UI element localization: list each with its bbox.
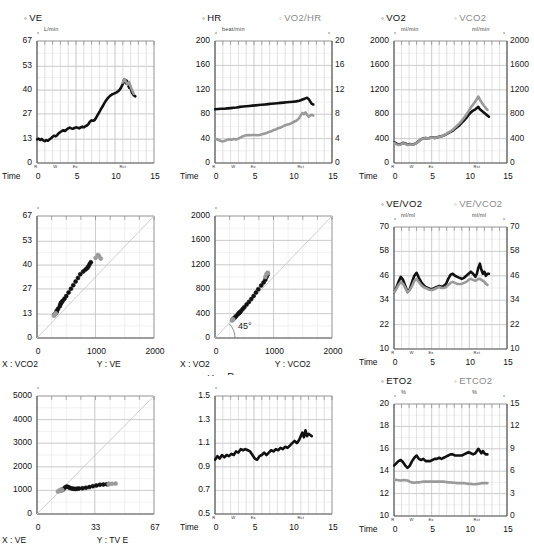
y-tick-label: 18 xyxy=(357,420,389,430)
event-marker-r: R xyxy=(212,515,215,520)
y-tick-label: 13 xyxy=(0,133,32,143)
chart-panel-panel9[interactable]: ◦ETO2◦ETCO2%%°°1012141618200369121505101… xyxy=(355,375,534,555)
x-axis-label: X : VCO2 xyxy=(2,359,38,369)
y-tick-label-right: 0 xyxy=(510,157,515,167)
plot-area-panel5 xyxy=(214,215,333,339)
y-tick-label: 1200 xyxy=(357,84,389,94)
y-tick-label: 1.1 xyxy=(178,437,210,447)
legend-label: HR xyxy=(207,12,221,23)
x-tick-label: 0 xyxy=(28,346,48,356)
x-tick-label: 0 xyxy=(385,524,405,534)
chart-panel-panel2[interactable]: ◦HR◦VO2/HRbeat/min°°04080120160200048121… xyxy=(178,0,355,190)
y-tick-label-right: 10 xyxy=(510,343,519,353)
legend-panel8-left: ◦R xyxy=(202,375,214,378)
event-marker-w: W xyxy=(410,350,414,355)
y-tick-label: 0.5 xyxy=(178,508,210,518)
x-tick-label: 0 xyxy=(206,346,226,356)
event-marker-w: W xyxy=(231,164,235,169)
x-axis-label-time: Time xyxy=(180,522,199,532)
y-tick-label: 40 xyxy=(178,133,210,143)
y-tick-label: 0.9 xyxy=(178,461,210,471)
legend-panel9-left: ◦ETO2 xyxy=(381,375,412,386)
x-axis-label-time: Time xyxy=(180,171,199,181)
y-tick-label: 4000 xyxy=(0,414,32,424)
y-tick-label-right: 800 xyxy=(510,108,524,118)
units-left-panel6: ml/ml xyxy=(401,212,415,218)
legend-marker-icon: ◦ xyxy=(381,14,384,23)
units-right-panel3: ml/min xyxy=(472,26,489,32)
legend-panel6-left: ◦VE/VO2 xyxy=(381,198,422,209)
degree-mark-left: ° xyxy=(394,31,396,37)
x-tick-label: 10 xyxy=(460,524,480,534)
x-tick-label: 5 xyxy=(423,524,443,534)
plot-area-panel2 xyxy=(214,40,333,164)
x-tick-label: 15 xyxy=(498,171,518,181)
event-marker-rct: Rct xyxy=(474,517,480,522)
plot-area-panel7 xyxy=(36,395,155,515)
y-tick-label-right: 9 xyxy=(510,443,515,453)
cpet-nine-panel-grid: ◦VEL/min°01327405367051015TimeRWExRct◦HR… xyxy=(0,0,534,555)
y-tick-label: 13 xyxy=(0,308,32,318)
chart-panel-panel3[interactable]: ◦VO2◦VCO2ml/minml/min°°04008001200160020… xyxy=(355,0,534,190)
y-tick-label-right: 1200 xyxy=(510,84,529,94)
legend-marker-icon: ◦ xyxy=(381,377,384,386)
event-marker-ex: Ex xyxy=(73,164,78,169)
x-tick-label: 15 xyxy=(498,357,518,367)
y-tick-label: 34 xyxy=(357,294,389,304)
y-tick-label: 0 xyxy=(0,508,32,518)
y-tick-label: 2000 xyxy=(357,35,389,45)
y-tick-label: 14 xyxy=(357,465,389,475)
y-tick-label: 46 xyxy=(357,270,389,280)
legend-label: R xyxy=(207,375,214,378)
y-tick-label: 53 xyxy=(0,60,32,70)
y-tick-label-right: 20 xyxy=(335,35,344,45)
degree-mark-left: ° xyxy=(37,386,39,392)
y-tick-label: 400 xyxy=(357,133,389,143)
event-marker-rct: Rct xyxy=(298,515,304,520)
y-tick-label-right: 0 xyxy=(510,510,515,520)
y-tick-label-right: 12 xyxy=(335,84,344,94)
y-tick-label: 1200 xyxy=(178,259,210,269)
y-tick-label: 67 xyxy=(0,35,32,45)
x-tick-label: 5 xyxy=(245,522,265,532)
x-axis-label-time: Time xyxy=(2,171,21,181)
event-marker-ex: Ex xyxy=(428,164,433,169)
degree-mark-right: ° xyxy=(328,31,330,37)
event-marker-ex: Ex xyxy=(251,164,256,169)
degree-mark-left: ° xyxy=(394,217,396,223)
y-tick-label: 1600 xyxy=(357,59,389,69)
chart-panel-panel4[interactable]: °01327405367010002000X : VCO2Y : VE xyxy=(0,190,178,375)
x-tick-label: 5 xyxy=(423,171,443,181)
y-tick-label-right: 2000 xyxy=(510,35,529,45)
legend-panel9-right: ◦ETCO2 xyxy=(454,375,492,386)
y-tick-label-right: 3 xyxy=(510,488,515,498)
x-tick-label: 2000 xyxy=(145,346,165,356)
units-left-panel2: beat/min xyxy=(222,26,245,32)
y-tick-label: 2000 xyxy=(0,461,32,471)
x-tick-label: 10 xyxy=(460,171,480,181)
chart-panel-panel5[interactable]: °0400800120016002000010002000X : VO2Y : … xyxy=(178,190,355,375)
chart-panel-panel1[interactable]: ◦VEL/min°01327405367051015TimeRWExRct xyxy=(0,0,178,190)
chart-panel-panel7[interactable]: °01000200030004000500003367X : VEY : TV … xyxy=(0,375,178,555)
y-tick-label: 120 xyxy=(178,84,210,94)
legend-panel6-right: ◦VE/VCO2 xyxy=(454,198,502,209)
plot-area-panel6 xyxy=(393,226,508,350)
event-marker-ex: Ex xyxy=(428,517,433,522)
y-tick-label: 16 xyxy=(357,443,389,453)
y-tick-label: 0 xyxy=(178,157,210,167)
event-marker-w: W xyxy=(231,515,235,520)
legend-label: VO2/HR xyxy=(284,12,321,23)
y-tick-label-right: 400 xyxy=(510,133,524,143)
plot-area-panel8 xyxy=(214,395,333,515)
chart-panel-panel6[interactable]: ◦VE/VO2◦VE/VCO2ml/mlml/ml°°1022344658701… xyxy=(355,190,534,375)
y-tick-label-right: 6 xyxy=(510,465,515,475)
legend-marker-icon: ◦ xyxy=(202,375,205,378)
legend-marker-icon: ◦ xyxy=(454,377,457,386)
chart-panel-panel8[interactable]: ◦R°0.50.70.91.11.31.5051015TimeRWExRct xyxy=(178,375,355,555)
y-tick-label: 400 xyxy=(178,308,210,318)
y-tick-label: 1.5 xyxy=(178,390,210,400)
event-marker-w: W xyxy=(410,164,414,169)
x-tick-label: 0 xyxy=(385,357,405,367)
units-right-panel6: ml/ml xyxy=(472,212,486,218)
x-tick-label: 15 xyxy=(145,171,165,181)
